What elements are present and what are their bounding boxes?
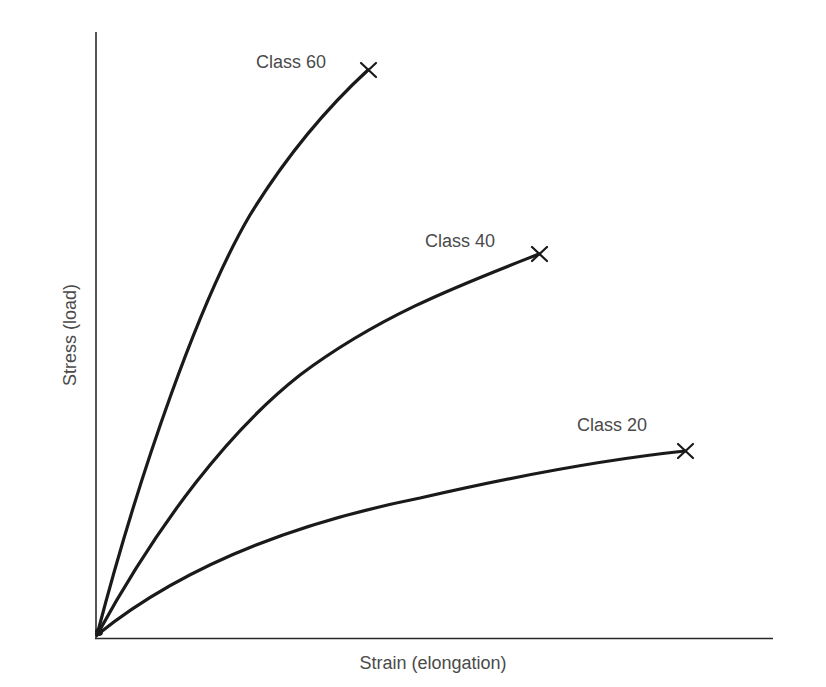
origin-point [95,628,103,636]
label-class-40: Class 40 [425,231,495,251]
label-class-20: Class 20 [577,415,647,435]
chart-svg: Class 60 Class 40 Class 20 Strain (elong… [0,0,826,687]
stress-strain-chart: Class 60 Class 40 Class 20 Strain (elong… [0,0,826,687]
failure-marker-class-40 [532,247,547,261]
curve-class-60 [97,70,368,635]
curve-class-20 [97,451,685,635]
x-axis-label: Strain (elongation) [359,653,506,673]
label-class-60: Class 60 [256,52,326,72]
y-axis-label: Stress (load) [60,284,80,386]
curve-class-40 [97,254,539,635]
failure-marker-class-60 [361,63,376,77]
